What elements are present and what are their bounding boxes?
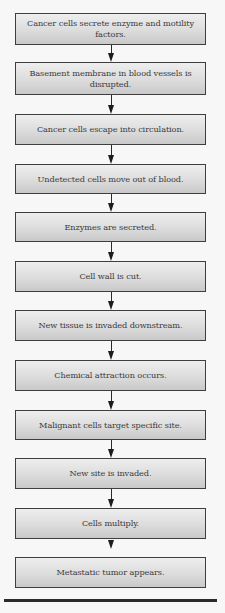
arrowhead-icon [108, 449, 114, 458]
arrow-9-to-10 [108, 440, 114, 458]
step-label: Chemical attraction occurs. [54, 370, 166, 381]
step-label: Cells multiply. [82, 518, 139, 529]
arrow-2-to-3 [108, 95, 114, 114]
step-box-12: Metastatic tumor appears. [15, 557, 206, 588]
arrow-7-to-8 [108, 341, 114, 360]
step-label: New site is invaded. [70, 468, 152, 479]
step-box-2: Basement membrane in blood vessels is di… [15, 62, 206, 95]
step-label: Cell wall is cut. [79, 271, 141, 282]
step-box-10: New site is invaded. [15, 458, 206, 489]
arrow-4-to-5 [108, 194, 114, 212]
arrowhead-icon [108, 401, 114, 410]
step-label: Undetected cells move out of blood. [38, 174, 184, 185]
step-label: Metastatic tumor appears. [57, 567, 165, 578]
step-box-8: Chemical attraction occurs. [15, 360, 206, 391]
arrow-10-to-11 [108, 489, 114, 508]
step-label: Cancer cells escape into circulation. [37, 124, 184, 135]
step-box-1: Cancer cells secrete enzyme and motility… [15, 13, 206, 45]
step-label: Enzymes are secreted. [64, 222, 156, 233]
step-label: Cancer cells secrete enzyme and motility… [24, 18, 197, 40]
arrowhead-icon [108, 540, 114, 549]
arrowhead-icon [108, 203, 114, 212]
arrow-8-to-9 [108, 391, 114, 410]
step-box-5: Enzymes are secreted. [15, 212, 206, 242]
arrow-1-to-2 [108, 45, 114, 62]
arrowhead-icon [108, 499, 114, 508]
arrowhead-icon [108, 155, 114, 164]
arrowhead-icon [108, 301, 114, 310]
step-box-7: New tissue is invaded downstream. [15, 310, 206, 341]
step-box-3: Cancer cells escape into circulation. [15, 114, 206, 145]
step-box-6: Cell wall is cut. [15, 261, 206, 292]
step-box-11: Cells multiply. [15, 508, 206, 539]
arrowhead-icon [108, 105, 114, 114]
arrow-6-to-7 [108, 292, 114, 310]
step-box-4: Undetected cells move out of blood. [15, 164, 206, 194]
arrowhead-icon [108, 351, 114, 360]
arrowhead-icon [108, 252, 114, 261]
bottom-rule-divider [4, 599, 217, 602]
step-label: Basement membrane in blood vessels is di… [24, 68, 197, 90]
step-box-9: Malignant cells target specific site. [15, 410, 206, 440]
metastasis-flowchart: Cancer cells secrete enzyme and motility… [0, 0, 225, 613]
arrow-5-to-6 [108, 242, 114, 261]
step-label: Malignant cells target specific site. [39, 420, 182, 431]
arrow-3-to-4 [108, 145, 114, 164]
arrow-11-to-12 [108, 539, 114, 549]
step-label: New tissue is invaded downstream. [38, 320, 182, 331]
arrowhead-icon [108, 53, 114, 62]
